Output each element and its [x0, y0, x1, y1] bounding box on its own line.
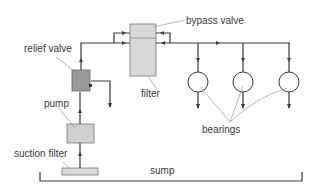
bearing-2: [233, 43, 253, 109]
suction-filter: [62, 168, 98, 175]
label-relief-valve: relief valve: [24, 43, 72, 54]
bearing-3: [279, 43, 299, 109]
label-sump: sump: [150, 165, 175, 176]
label-bypass-valve: bypass valve: [186, 15, 244, 26]
lubrication-diagram: bypass valve relief valve filter pump su…: [0, 0, 311, 186]
label-bearings: bearings: [202, 124, 240, 135]
label-pump: pump: [44, 98, 69, 109]
leader-lines: [56, 20, 287, 169]
label-suction-filter: suction filter: [14, 148, 68, 159]
label-filter: filter: [141, 88, 161, 99]
bearing-1: [188, 43, 208, 109]
pump: [67, 124, 94, 143]
relief-valve: [72, 70, 90, 91]
filter: [130, 24, 156, 76]
